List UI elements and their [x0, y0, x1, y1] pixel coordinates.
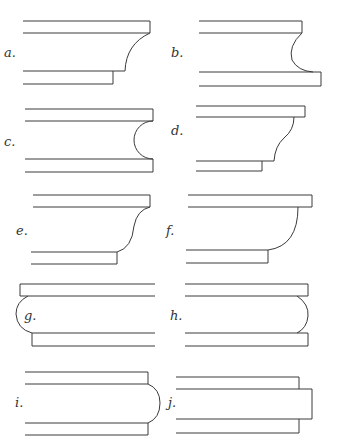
moulding-profiles-diagram: a. b. c. d. e. f. g. [0, 0, 338, 446]
profile-f: f. [165, 195, 312, 263]
label-i: i. [15, 395, 23, 410]
label-g: g. [24, 308, 36, 323]
profile-a: a. [4, 21, 150, 84]
label-d: d. [171, 123, 183, 138]
profile-h: h. [170, 284, 308, 346]
profile-b: b. [171, 21, 321, 86]
label-e: e. [16, 223, 28, 238]
profile-i: i. [15, 372, 160, 435]
profile-e: e. [16, 195, 150, 264]
profile-g: g. [16, 284, 155, 346]
label-j: j. [165, 395, 176, 410]
label-b: b. [171, 45, 183, 60]
label-f: f. [165, 223, 174, 238]
label-h: h. [170, 308, 183, 323]
profile-j: j. [165, 377, 312, 433]
profile-d: d. [171, 106, 305, 171]
profile-c: c. [4, 109, 153, 172]
label-c: c. [4, 134, 15, 149]
label-a: a. [4, 45, 16, 60]
